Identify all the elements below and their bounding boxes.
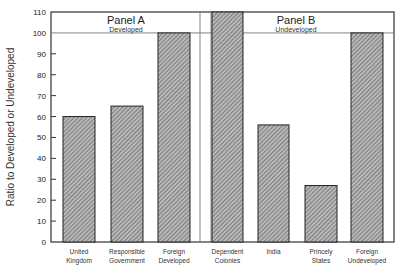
y-tick-label: 60 — [37, 113, 46, 122]
category-label: Responsible — [109, 248, 145, 256]
y-tick-label: 70 — [37, 92, 46, 101]
y-axis-title: Ratio to Developed or Undeveloped — [5, 48, 16, 206]
bar — [111, 106, 143, 242]
y-tick-label: 20 — [37, 196, 46, 205]
y-tick-label: 30 — [37, 175, 46, 184]
bars — [63, 12, 383, 242]
category-label: Government — [109, 257, 145, 264]
panel-title: Panel B — [277, 14, 316, 26]
y-tick-label: 50 — [37, 133, 46, 142]
category-label: Colonies — [215, 257, 241, 264]
category-label: Princely — [309, 248, 333, 256]
category-labels: UnitedKingdomResponsibleGovernmentForeig… — [66, 248, 386, 265]
y-tick-label: 40 — [37, 154, 46, 163]
y-tick-label: 80 — [37, 71, 46, 80]
bar-chart: Ratio to Developed or Undeveloped 010203… — [0, 0, 402, 274]
bar — [63, 117, 95, 242]
y-tick-label: 10 — [37, 217, 46, 226]
panel-subtitle: Undeveloped — [275, 26, 316, 34]
category-label: United — [70, 248, 89, 255]
bar — [212, 12, 243, 242]
category-label: States — [312, 257, 331, 264]
y-tick-label: 0 — [42, 238, 47, 247]
bar — [351, 33, 383, 242]
y-tick-label: 100 — [33, 29, 47, 38]
bar — [258, 125, 289, 242]
category-label: Foreign — [163, 248, 185, 256]
y-tick-label: 90 — [37, 50, 46, 59]
y-tick-label: 110 — [33, 8, 46, 17]
category-label: Dependent — [212, 248, 244, 256]
y-axis-label: Ratio to Developed or Undeveloped — [5, 48, 16, 206]
bar — [305, 186, 337, 242]
bar — [158, 33, 190, 242]
category-label: Undeveloped — [348, 257, 387, 265]
category-label: India — [266, 248, 280, 255]
category-label: Developed — [158, 257, 189, 265]
panel-subtitle: Developed — [109, 26, 143, 34]
panel-title: Panel A — [107, 14, 146, 26]
category-label: Foreign — [356, 248, 378, 256]
category-label: Kingdom — [66, 257, 92, 265]
